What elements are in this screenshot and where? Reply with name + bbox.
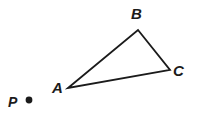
vertex-label-c: C — [173, 63, 184, 78]
vertex-label-b: B — [131, 6, 142, 21]
vertex-label-a: A — [52, 80, 63, 95]
geometry-figure: A B C P — [0, 0, 206, 118]
geometry-canvas — [0, 0, 206, 118]
point-label-p: P — [8, 95, 17, 109]
point-p-dot — [26, 97, 33, 104]
